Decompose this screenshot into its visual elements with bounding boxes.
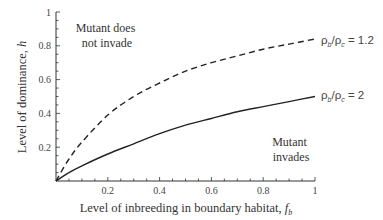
x-tick-label: 0.2	[102, 185, 115, 196]
x-tick-label: 0.8	[257, 185, 270, 196]
x-tick-label: 0.4	[153, 185, 166, 196]
legend-label-rho-1.2: ρb/ρc = 1.2	[321, 34, 374, 48]
y-tick-label: 0.8	[39, 40, 52, 51]
dominance-vs-inbreeding-chart: 0.2 0.4 0.6 0.8 1 0.2 0.4 0.6 0.8 1 Leve…	[0, 0, 383, 220]
annotation-does-not-invade: Mutant does not invade	[76, 21, 139, 50]
y-axis-title: Level of dominance, h	[15, 41, 29, 153]
y-tick-label: 0.6	[39, 74, 52, 85]
x-tick-label: 0.6	[205, 185, 218, 196]
y-tick-label: 0.2	[39, 142, 52, 153]
y-minor-ticks	[56, 12, 60, 173]
y-tick-label: 0.4	[39, 108, 52, 119]
x-tick-label: 1	[313, 185, 318, 196]
legend-label-rho-2: ρb/ρc = 2	[321, 89, 364, 103]
y-tick-label: 1	[46, 7, 51, 18]
x-axis-title: Level of inbreeding in boundary habitat,…	[80, 201, 293, 217]
annotation-invades: Mutant invades	[272, 135, 310, 164]
x-minor-ticks	[69, 177, 315, 181]
